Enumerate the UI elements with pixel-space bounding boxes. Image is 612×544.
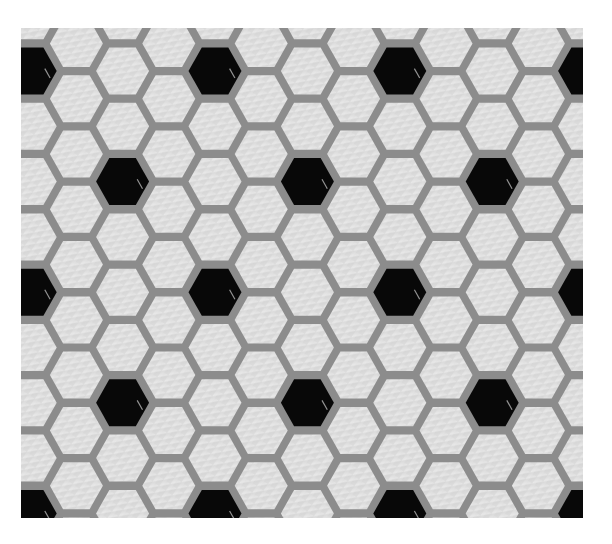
black-hex-tile	[96, 379, 149, 426]
white-hex-tile	[373, 158, 426, 205]
white-hex-tile	[558, 324, 583, 371]
white-hex-tile	[50, 462, 103, 509]
white-hex-tile	[281, 103, 334, 150]
white-hex-tile	[512, 241, 565, 288]
white-hex-tile	[96, 269, 149, 316]
white-hex-tile	[558, 213, 583, 260]
white-hex-tile	[235, 28, 288, 67]
white-hex-tile	[420, 130, 473, 177]
white-hex-tile	[50, 75, 103, 122]
white-hex-tile	[373, 435, 426, 482]
white-hex-tile	[558, 103, 583, 150]
white-hex-tile	[327, 28, 380, 67]
white-hex-tile	[235, 407, 288, 454]
black-hex-tile	[189, 269, 242, 316]
white-hex-tile	[142, 296, 195, 343]
white-hex-tile	[327, 296, 380, 343]
white-hex-tile	[142, 462, 195, 509]
black-hex-tile	[189, 48, 242, 95]
white-hex-tile	[235, 462, 288, 509]
white-hex-tile	[512, 352, 565, 399]
black-hex-tile	[189, 490, 242, 518]
black-hex-tile	[373, 48, 426, 95]
white-hex-tile	[420, 28, 473, 67]
white-hex-tile	[512, 28, 565, 67]
black-hex-tile	[558, 490, 583, 518]
white-hex-tile	[512, 462, 565, 509]
white-hex-tile	[50, 518, 103, 519]
white-hex-tile	[373, 213, 426, 260]
white-hex-tile	[96, 28, 149, 39]
white-hex-tile	[96, 213, 149, 260]
white-hex-tile	[281, 269, 334, 316]
white-hex-tile	[21, 28, 57, 39]
white-hex-tile	[466, 28, 519, 39]
white-hex-tile	[96, 103, 149, 150]
white-hex-tile	[142, 518, 195, 519]
white-hex-tile	[189, 103, 242, 150]
white-hex-tile	[281, 213, 334, 260]
black-hex-tile	[281, 379, 334, 426]
white-hex-tile	[327, 352, 380, 399]
white-hex-tile	[142, 28, 195, 67]
white-hex-tile	[235, 241, 288, 288]
white-hex-tile	[558, 158, 583, 205]
black-hex-tile	[21, 48, 57, 95]
white-hex-tile	[512, 75, 565, 122]
black-hex-tile	[373, 269, 426, 316]
hex-tile-pattern	[21, 28, 583, 518]
white-hex-tile	[558, 28, 583, 39]
white-hex-tile	[281, 28, 334, 39]
black-hex-tile	[466, 158, 519, 205]
white-hex-tile	[189, 158, 242, 205]
white-hex-tile	[466, 269, 519, 316]
white-hex-tile	[50, 186, 103, 233]
white-hex-tile	[142, 186, 195, 233]
white-hex-tile	[420, 75, 473, 122]
white-hex-tile	[512, 186, 565, 233]
white-hex-tile	[466, 435, 519, 482]
black-hex-tile	[21, 269, 57, 316]
white-hex-tile	[50, 130, 103, 177]
white-hex-tile	[373, 103, 426, 150]
white-hex-tile	[466, 103, 519, 150]
white-hex-tile	[21, 103, 57, 150]
white-hex-tile	[50, 352, 103, 399]
tile-group	[21, 28, 583, 518]
black-hex-tile	[96, 158, 149, 205]
white-hex-tile	[142, 241, 195, 288]
white-hex-tile	[189, 324, 242, 371]
white-hex-tile	[281, 324, 334, 371]
white-hex-tile	[512, 296, 565, 343]
white-hex-tile	[96, 324, 149, 371]
white-hex-tile	[512, 518, 565, 519]
white-hex-tile	[50, 28, 103, 67]
black-hex-tile	[558, 48, 583, 95]
white-hex-tile	[96, 435, 149, 482]
white-hex-tile	[281, 48, 334, 95]
black-hex-tile	[281, 158, 334, 205]
white-hex-tile	[21, 324, 57, 371]
white-hex-tile	[235, 518, 288, 519]
white-hex-tile	[189, 379, 242, 426]
white-hex-tile	[189, 435, 242, 482]
white-hex-tile	[373, 379, 426, 426]
white-hex-tile	[142, 407, 195, 454]
white-hex-tile	[21, 213, 57, 260]
hex-tile-photo: Hexagonal mosaic floor tile pattern	[21, 28, 583, 518]
white-hex-tile	[50, 241, 103, 288]
white-hex-tile	[420, 462, 473, 509]
white-hex-tile	[512, 130, 565, 177]
white-hex-tile	[21, 158, 57, 205]
white-hex-tile	[281, 490, 334, 518]
white-hex-tile	[327, 241, 380, 288]
white-hex-tile	[21, 379, 57, 426]
white-hex-tile	[50, 296, 103, 343]
white-hex-tile	[281, 435, 334, 482]
white-hex-tile	[420, 407, 473, 454]
white-hex-tile	[235, 186, 288, 233]
black-hex-tile	[373, 490, 426, 518]
white-hex-tile	[235, 352, 288, 399]
white-hex-tile	[327, 186, 380, 233]
white-hex-tile	[466, 213, 519, 260]
